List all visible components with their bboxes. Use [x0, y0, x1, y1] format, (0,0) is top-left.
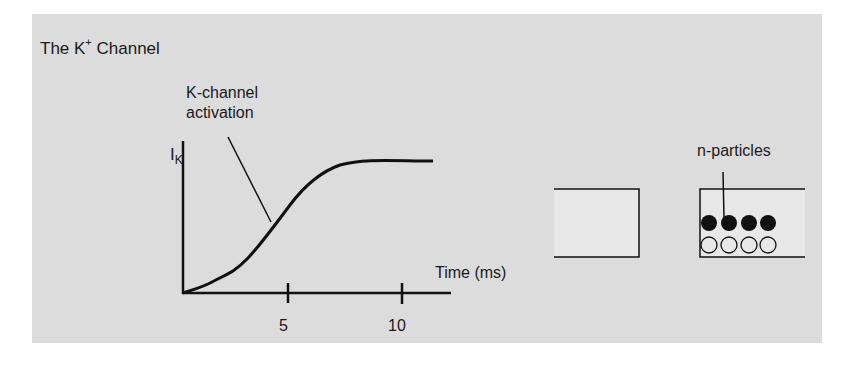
annotation-pointer: [228, 137, 271, 222]
open-channel-box: [700, 172, 805, 257]
n-particles-pointer: [723, 172, 724, 218]
chart-axes: [182, 141, 451, 304]
diagram-artwork: [0, 0, 850, 365]
activation-curve: [183, 160, 433, 293]
closed-channel-box: [554, 189, 639, 257]
